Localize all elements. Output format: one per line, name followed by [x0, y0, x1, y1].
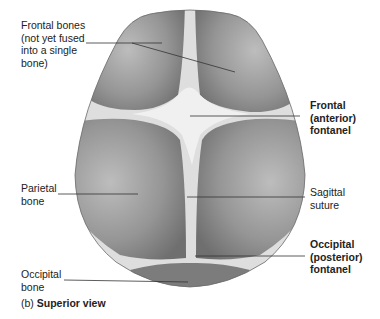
caption-prefix: (b) — [21, 297, 34, 309]
frontal-bone-right — [195, 0, 295, 112]
skull-superior-view-figure: Frontal bones (not yet fused into a sing… — [0, 0, 380, 319]
parietal-bone-right — [196, 119, 320, 260]
label-sagittal-suture: Sagittal suture — [310, 186, 345, 211]
parietal-bone-left — [60, 119, 186, 260]
occipital-bone-shape — [130, 263, 250, 292]
label-occipital-bone: Occipital bone — [21, 268, 61, 293]
label-frontal-bones: Frontal bones (not yet fused into a sing… — [21, 19, 85, 69]
caption-title: Superior view — [37, 297, 106, 309]
figure-caption: (b) Superior view — [21, 297, 106, 309]
label-parietal-bone: Parietal bone — [21, 182, 57, 207]
label-frontal-anterior-fontanel: Frontal (anterior) fontanel — [310, 99, 356, 137]
label-occipital-posterior-fontanel: Occipital (posterior) fontanel — [310, 238, 363, 276]
skull-shape — [60, 0, 320, 300]
frontal-bone-left — [90, 0, 185, 110]
